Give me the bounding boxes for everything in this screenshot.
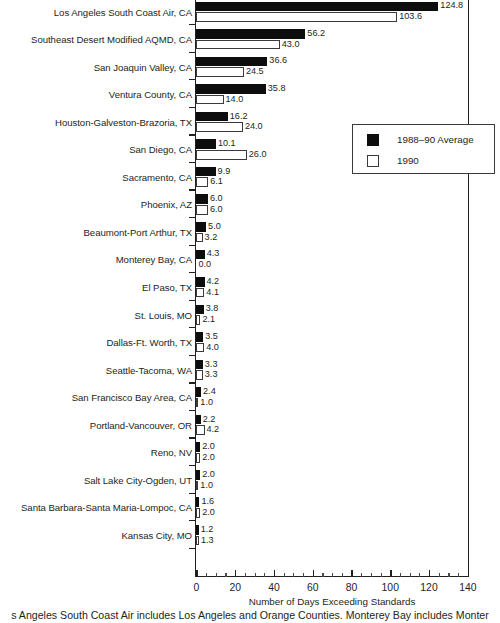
category-axis-tick: [189, 548, 196, 549]
bar-row: St. Louis, MO3.82.1: [0, 303, 500, 331]
bar-1988-90-average: [196, 525, 198, 535]
bar-1990: [196, 12, 397, 22]
x-axis-minor-tick: [225, 573, 226, 578]
bar-1990: [196, 122, 243, 132]
bar-value-label: 0.0: [198, 260, 211, 270]
x-axis-tick-label: 0: [194, 581, 200, 594]
x-axis-tick-label: 120: [420, 581, 437, 594]
bar-value-label: 1.3: [201, 536, 214, 546]
bar-1990: [196, 288, 204, 298]
x-axis-minor-tick: [400, 573, 401, 578]
x-axis-minor-tick: [264, 573, 265, 578]
legend-label: 1988–90 Average: [397, 133, 474, 147]
bar-1988-90-average: [196, 29, 305, 39]
category-label: Southeast Desert Modified AQMD, CA: [0, 33, 192, 46]
bar-value-label: 4.3: [207, 249, 220, 259]
bar-value-label: 2.0: [202, 508, 215, 518]
x-axis-major-tick: [313, 570, 314, 577]
category-label: San Diego, CA: [0, 143, 192, 156]
bar-value-label: 36.6: [269, 56, 287, 66]
bar-row: Los Angeles South Coast Air, CA124.8103.…: [0, 0, 500, 28]
category-axis-tick: [189, 245, 196, 246]
bar-1990: [196, 425, 204, 435]
category-axis-tick: [189, 327, 196, 328]
category-axis-tick: [189, 24, 196, 25]
bar-1988-90-average: [196, 84, 265, 94]
bar-value-label: 43.0: [282, 40, 300, 50]
x-axis-tick-label: 100: [382, 581, 399, 594]
bar-1990: [196, 343, 204, 353]
x-axis-major-tick: [390, 570, 391, 577]
x-axis-minor-tick: [439, 573, 440, 578]
bar-1990: [196, 233, 202, 243]
bar-1988-90-average: [196, 57, 267, 67]
bar-row: Beaumont-Port Arthur, TX5.03.2: [0, 220, 500, 248]
bar-row: San Joaquin Valley, CA36.624.5: [0, 55, 500, 83]
category-label: Monterey Bay, CA: [0, 253, 192, 266]
bar-value-label: 35.8: [268, 84, 286, 94]
category-label: Santa Barbara-Santa Maria-Lompoc, CA: [0, 501, 192, 514]
category-axis-tick: [189, 355, 196, 356]
bar-1988-90-average: [196, 139, 216, 149]
bar-value-label: 6.1: [210, 177, 223, 187]
category-axis-tick: [189, 272, 196, 273]
x-axis-major-tick: [351, 570, 352, 577]
category-label: Phoenix, AZ: [0, 198, 192, 211]
bar-1990: [196, 370, 202, 380]
bar-value-label: 26.0: [249, 150, 267, 160]
x-axis-minor-tick: [322, 573, 323, 578]
legend-swatch-filled-icon: [367, 134, 379, 146]
legend-label: 1990: [397, 154, 419, 168]
bar-1990: [196, 398, 198, 408]
x-axis-tick-label: 140: [459, 581, 476, 594]
bar-1988-90-average: [196, 112, 227, 122]
bar-value-label: 1.2: [201, 525, 214, 535]
category-axis-tick: [189, 520, 196, 521]
x-axis-minor-tick: [206, 573, 207, 578]
category-label: San Joaquin Valley, CA: [0, 61, 192, 74]
bar-value-label: 1.6: [202, 497, 215, 507]
bar-value-label: 10.1: [218, 139, 236, 149]
bar-value-label: 6.0: [210, 205, 223, 215]
category-axis-tick: [189, 465, 196, 466]
legend-swatch-outline-icon: [367, 155, 379, 167]
category-label: Los Angeles South Coast Air, CA: [0, 6, 192, 19]
bar-value-label: 2.0: [202, 453, 215, 463]
x-axis-major-tick: [468, 570, 469, 577]
category-label: El Paso, TX: [0, 281, 192, 294]
bar-value-label: 14.0: [226, 95, 244, 105]
bar-row: Phoenix, AZ6.06.0: [0, 193, 500, 221]
x-axis-minor-tick: [216, 573, 217, 578]
category-label: St. Louis, MO: [0, 309, 192, 322]
bar-1988-90-average: [196, 2, 438, 12]
bar-value-label: 6.0: [210, 194, 223, 204]
bar-value-label: 9.9: [218, 167, 231, 177]
bar-1990: [196, 205, 208, 215]
bar-value-label: 5.0: [208, 222, 221, 232]
bar-1988-90-average: [196, 415, 200, 425]
bar-row: Southeast Desert Modified AQMD, CA56.243…: [0, 28, 500, 56]
bar-row: Ventura County, CA35.814.0: [0, 83, 500, 111]
bar-chart: Los Angeles South Coast Air, CA124.8103.…: [0, 0, 500, 623]
category-axis-tick: [189, 107, 196, 108]
x-axis-minor-tick: [361, 573, 362, 578]
category-axis-tick: [189, 300, 196, 301]
bar-value-label: 2.1: [202, 315, 215, 325]
bar-value-label: 4.1: [206, 288, 219, 298]
bar-value-label: 2.0: [202, 470, 215, 480]
bar-row: Reno, NV2.02.0: [0, 441, 500, 469]
x-axis-minor-tick: [245, 573, 246, 578]
category-label: Houston-Galveston-Brazoria, TX: [0, 116, 192, 129]
x-axis-major-tick: [429, 570, 430, 577]
x-axis-minor-tick: [419, 573, 420, 578]
bar-value-label: 3.3: [205, 370, 218, 380]
bar-row: El Paso, TX4.24.1: [0, 276, 500, 304]
category-axis-tick: [189, 162, 196, 163]
bar-value-label: 4.2: [207, 277, 220, 287]
bar-1988-90-average: [196, 470, 200, 480]
bar-value-label: 2.2: [203, 415, 216, 425]
bar-1988-90-average: [196, 360, 202, 370]
bar-row: Monterey Bay, CA4.30.0: [0, 248, 500, 276]
x-axis-tick-label: 20: [229, 581, 241, 594]
category-label: Salt Lake City-Ogden, UT: [0, 474, 192, 487]
